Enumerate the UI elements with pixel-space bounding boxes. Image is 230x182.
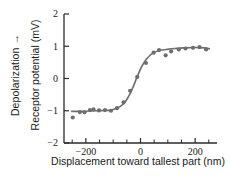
data-point — [177, 47, 181, 51]
data-point — [78, 110, 82, 114]
chart-tick-labels: −2−1012−2000200 — [47, 8, 202, 157]
data-point — [82, 110, 86, 114]
svg-text:−2: −2 — [47, 137, 58, 148]
svg-text:1: 1 — [53, 41, 58, 52]
data-point — [157, 48, 161, 52]
chart-axes — [64, 14, 217, 143]
x-axis-label: Displacement toward tallest part (nm) — [48, 155, 228, 167]
data-point — [144, 61, 148, 65]
data-point — [191, 46, 195, 50]
data-point — [109, 109, 113, 113]
data-point — [97, 108, 101, 112]
data-point — [135, 75, 139, 79]
data-point — [103, 108, 107, 112]
data-point — [71, 115, 75, 119]
data-point — [183, 46, 187, 50]
data-point — [204, 47, 208, 51]
svg-text:2: 2 — [53, 8, 58, 19]
svg-text:−1: −1 — [47, 105, 58, 116]
data-point — [128, 89, 132, 93]
data-point — [115, 106, 119, 110]
svg-text:0: 0 — [53, 73, 58, 84]
data-point — [169, 49, 173, 53]
data-point — [88, 108, 92, 112]
data-point — [91, 107, 95, 111]
data-point — [152, 51, 156, 55]
data-points — [71, 45, 209, 119]
figure-container: Depolarization → Receptor potential (mV)… — [0, 0, 230, 182]
data-point — [164, 53, 168, 57]
data-point — [197, 45, 201, 49]
fit-curve — [72, 48, 210, 112]
data-point — [121, 100, 125, 104]
